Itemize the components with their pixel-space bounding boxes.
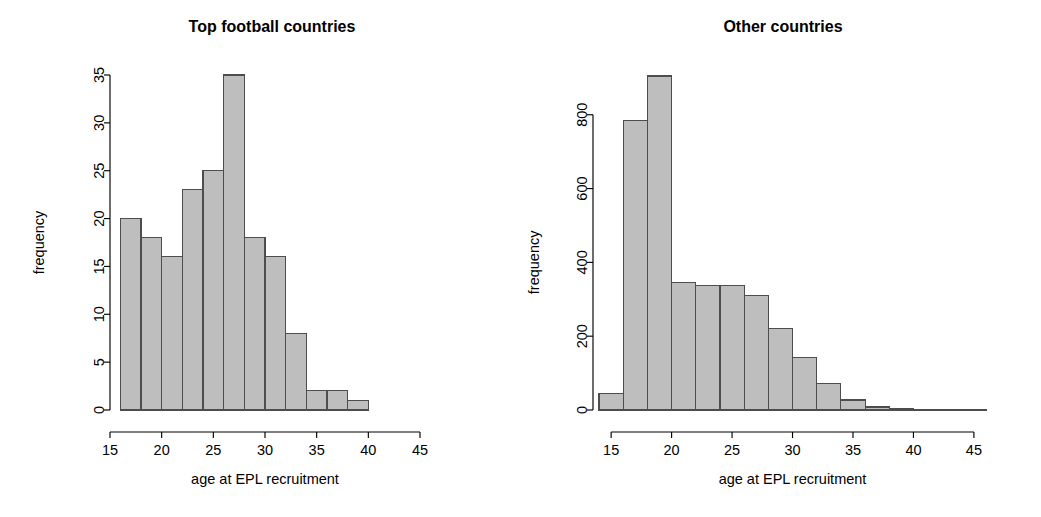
plot-title: Top football countries [189,18,356,35]
panel-other-countries: Other countries0200400600800152025303540… [521,0,1041,517]
y-tick-label: 35 [91,67,107,83]
y-tick-label: 800 [574,103,590,127]
x-tick-label: 30 [784,442,800,458]
histogram-bar [141,238,162,410]
histogram-bar [962,409,986,410]
histogram-bar [841,400,865,410]
x-axis-title: age at EPL recruitment [191,471,339,487]
histogram-bar [647,76,671,410]
histogram-bar [889,409,913,410]
histogram-bars [120,75,368,410]
histogram-bar [327,391,348,410]
x-axis-title: age at EPL recruitment [719,471,867,487]
x-tick-label: 15 [603,442,619,458]
x-tick-label: 35 [845,442,861,458]
histogram-bar [244,238,265,410]
histogram-bar [913,409,937,410]
histogram-bar [120,219,141,410]
histogram-bar [203,171,224,410]
histogram-bar [865,407,889,410]
chart-svg-right: Other countries0200400600800152025303540… [521,0,1041,517]
x-tick-label: 40 [360,442,376,458]
histogram-bar [938,409,962,410]
histogram-bar [306,391,327,410]
histogram-bar [768,328,792,410]
histogram-bar [744,296,768,410]
plot-title: Other countries [723,18,842,35]
y-tick-label: 0 [574,406,590,414]
histogram-bar [182,190,203,410]
histogram-bar [817,383,841,410]
y-axis-title: frequency [31,210,47,274]
x-tick-label: 25 [724,442,740,458]
histogram-bar [793,357,817,410]
x-tick-label: 20 [154,442,170,458]
y-tick-label: 0 [91,406,107,414]
x-tick-label: 45 [412,442,428,458]
y-tick-label: 15 [91,258,107,274]
y-tick-label: 25 [91,163,107,179]
histogram-bar [224,75,245,410]
histogram-bar [599,393,623,410]
y-tick-label: 5 [91,358,107,366]
y-tick-label: 20 [91,211,107,227]
histogram-bar [696,285,720,410]
y-tick-label: 600 [574,176,590,200]
histogram-bars [599,76,986,410]
y-axis: 0200400600800 [574,103,593,414]
histogram-bar [162,257,183,410]
x-tick-label: 25 [205,442,221,458]
chart-svg-left: Top football countries051015202530351520… [0,0,520,517]
x-tick-label: 40 [905,442,921,458]
histogram-bar [286,333,307,410]
x-axis: 15202530354045 [603,432,982,458]
histogram-bar [623,120,647,410]
histogram-figure: Top football countries051015202530351520… [0,0,1041,517]
x-axis: 15202530354045 [102,432,428,458]
x-tick-label: 45 [966,442,982,458]
x-tick-label: 30 [257,442,273,458]
histogram-bar [348,400,369,410]
histogram-bar [720,285,744,410]
x-tick-label: 15 [102,442,118,458]
y-tick-label: 10 [91,306,107,322]
y-tick-label: 30 [91,115,107,131]
y-axis-title: frequency [526,230,542,294]
x-tick-label: 20 [664,442,680,458]
panel-top-football-countries: Top football countries051015202530351520… [0,0,520,517]
y-tick-label: 400 [574,250,590,274]
histogram-bar [672,283,696,410]
x-tick-label: 35 [309,442,325,458]
histogram-bar [265,257,286,410]
y-axis: 05101520253035 [91,67,110,414]
y-tick-label: 200 [574,324,590,348]
